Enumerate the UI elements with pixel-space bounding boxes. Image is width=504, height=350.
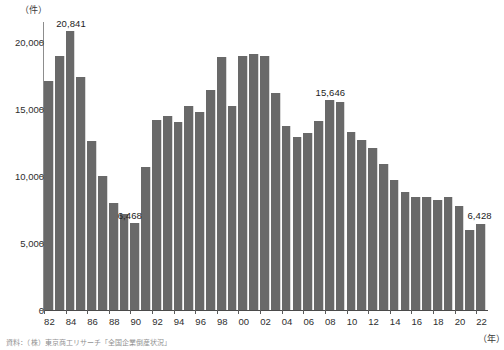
x-tick-label: 06 xyxy=(303,316,314,327)
x-tick-mark xyxy=(238,310,239,314)
plot-area xyxy=(44,22,487,310)
x-tick-label: 08 xyxy=(325,316,336,327)
x-tick-mark xyxy=(325,310,326,314)
bar[interactable] xyxy=(260,56,270,311)
bar[interactable] xyxy=(411,197,421,310)
x-tick-label: 84 xyxy=(66,316,77,327)
bar[interactable] xyxy=(303,133,313,310)
x-tick-mark xyxy=(44,310,45,314)
bar[interactable] xyxy=(130,223,140,310)
x-tick-label: 82 xyxy=(44,316,55,327)
bar[interactable] xyxy=(357,140,367,310)
bar[interactable] xyxy=(120,214,130,310)
x-tick-label: 22 xyxy=(476,316,487,327)
bar[interactable] xyxy=(433,200,443,310)
bar[interactable] xyxy=(174,122,184,310)
data-point-label: 15,646 xyxy=(315,87,345,98)
x-tick-mark xyxy=(476,310,477,314)
x-tick-mark xyxy=(217,310,218,314)
x-tick-mark xyxy=(109,310,110,314)
data-point-label: 6,468 xyxy=(118,210,142,221)
x-tick-mark xyxy=(130,310,131,314)
x-tick-label: 12 xyxy=(368,316,379,327)
bar[interactable] xyxy=(141,167,151,310)
y-tick-mark xyxy=(39,42,44,43)
bar[interactable] xyxy=(66,31,76,310)
bar[interactable] xyxy=(195,112,205,310)
x-tick-label: 20 xyxy=(455,316,466,327)
bar[interactable] xyxy=(314,121,324,310)
x-tick-label: 88 xyxy=(109,316,120,327)
x-tick-label: 86 xyxy=(87,316,98,327)
x-tick-mark xyxy=(411,310,412,314)
y-tick-label: 20,000 xyxy=(0,37,44,48)
y-tick-label: 5,000 xyxy=(0,238,44,249)
bar[interactable] xyxy=(444,197,454,310)
data-point-label: 20,841 xyxy=(56,18,86,29)
x-tick-label: 96 xyxy=(195,316,206,327)
x-tick-mark xyxy=(66,310,67,314)
bar[interactable] xyxy=(76,77,86,310)
bar[interactable] xyxy=(282,126,292,310)
bar[interactable] xyxy=(55,56,65,311)
x-tick-label: 10 xyxy=(347,316,358,327)
x-axis-unit-label: （年） xyxy=(478,332,504,345)
bar[interactable] xyxy=(163,116,173,310)
bar[interactable] xyxy=(476,224,486,310)
x-tick-mark xyxy=(152,310,153,314)
x-tick-label: 04 xyxy=(282,316,293,327)
bar[interactable] xyxy=(455,206,465,310)
bar[interactable] xyxy=(368,148,378,310)
x-tick-label: 90 xyxy=(131,316,142,327)
x-tick-label: 02 xyxy=(260,316,271,327)
bar[interactable] xyxy=(98,176,108,310)
x-tick-mark xyxy=(368,310,369,314)
bar[interactable] xyxy=(325,100,335,310)
x-tick-label: 14 xyxy=(390,316,401,327)
source-note: 資料：（株）東京商工リサーチ「全国企業倒産状況」 xyxy=(6,337,171,347)
x-tick-mark xyxy=(195,310,196,314)
x-tick-label: 98 xyxy=(217,316,228,327)
bar[interactable] xyxy=(249,54,259,310)
bar[interactable] xyxy=(347,132,357,310)
x-tick-mark xyxy=(87,310,88,314)
y-tick-label: 0 xyxy=(0,305,44,316)
y-axis-unit-label: （件） xyxy=(20,3,48,16)
x-tick-label: 16 xyxy=(411,316,422,327)
x-tick-mark xyxy=(390,310,391,314)
y-tick-label: 15,000 xyxy=(0,104,44,115)
x-tick-mark xyxy=(282,310,283,314)
bar[interactable] xyxy=(44,81,54,310)
x-tick-mark xyxy=(260,310,261,314)
bar[interactable] xyxy=(401,192,411,310)
bar[interactable] xyxy=(152,120,162,310)
x-tick-label: 94 xyxy=(174,316,185,327)
bar[interactable] xyxy=(390,180,400,310)
bar[interactable] xyxy=(271,93,281,310)
x-tick-mark xyxy=(433,310,434,314)
x-tick-label: 92 xyxy=(152,316,163,327)
x-tick-mark xyxy=(174,310,175,314)
x-tick-label: 00 xyxy=(239,316,250,327)
bar[interactable] xyxy=(87,141,97,310)
x-tick-mark xyxy=(303,310,304,314)
bar[interactable] xyxy=(422,197,432,310)
bar[interactable] xyxy=(465,230,475,310)
bar[interactable] xyxy=(184,106,194,310)
data-point-label: 6,428 xyxy=(467,210,491,221)
x-tick-mark xyxy=(455,310,456,314)
bar[interactable] xyxy=(293,137,303,310)
x-tick-mark xyxy=(347,310,348,314)
bar[interactable] xyxy=(336,102,346,310)
y-tick-label: 10,000 xyxy=(0,171,44,182)
bar[interactable] xyxy=(379,164,389,310)
bar[interactable] xyxy=(238,56,248,311)
bar-chart: （件） （年） 05,00010,00015,00020,000 8284868… xyxy=(0,0,504,350)
bar[interactable] xyxy=(228,106,238,310)
x-tick-label: 18 xyxy=(433,316,444,327)
bar[interactable] xyxy=(206,90,216,310)
bar[interactable] xyxy=(217,57,227,310)
